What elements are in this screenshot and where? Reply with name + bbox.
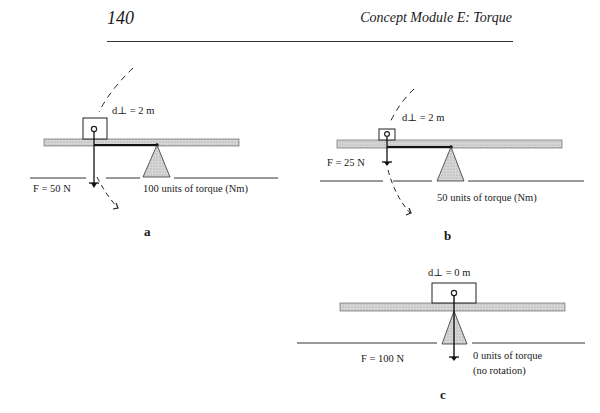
figure-label-b: b	[444, 228, 451, 243]
figure-a: d⊥ = 2 m F = 50 N 100 units of torque (N…	[30, 68, 278, 239]
figure-c: d⊥ = 0 m F = 100 N 0 units of torque (no…	[297, 267, 585, 402]
torque-label-c-line1: 0 units of torque	[473, 350, 542, 361]
figure-b: d⊥ = 2 m F = 25 N 50 units of torque (Nm…	[320, 89, 584, 243]
center-of-mass-icon-c	[451, 290, 456, 295]
torque-label-c-line2: (no rotation)	[473, 365, 526, 377]
figure-label-a: a	[144, 224, 151, 239]
torque-label-b: 50 units of torque (Nm)	[437, 192, 537, 204]
force-label-a: F = 50 N	[33, 183, 71, 194]
rotation-arc-bottom-b	[388, 170, 410, 213]
torque-label-a: 100 units of torque (Nm)	[143, 183, 248, 195]
fulcrum-a	[143, 145, 170, 177]
distance-label-c: d⊥ = 0 m	[428, 267, 470, 278]
torque-diagram: d⊥ = 2 m F = 50 N 100 units of torque (N…	[0, 0, 600, 413]
force-label-b: F = 25 N	[327, 157, 365, 168]
rotation-arc-bottom-a	[97, 177, 118, 208]
distance-label-a: d⊥ = 2 m	[112, 105, 154, 116]
force-label-c: F = 100 N	[361, 353, 404, 364]
center-of-mass-icon-a	[91, 126, 96, 131]
center-of-mass-icon-b	[385, 132, 390, 137]
distance-label-b: d⊥ = 2 m	[402, 112, 444, 123]
figure-label-c: c	[440, 387, 446, 402]
fulcrum-b	[437, 147, 464, 181]
beam-c	[340, 303, 565, 311]
